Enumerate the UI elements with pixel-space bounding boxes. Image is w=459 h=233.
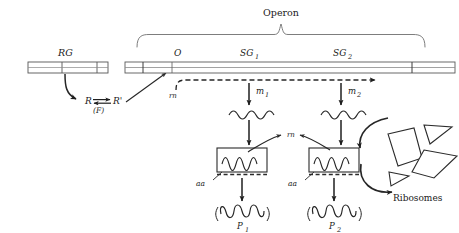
repressor-equilibrium-arrows [93,100,111,104]
ribosome-particle-1 [388,128,422,166]
regulator-transcription-arrow [65,74,76,99]
regulator-gene-label: RG [57,47,73,58]
protein-2-label: P [328,221,335,231]
amino-acid-pointer-left [213,172,222,180]
mrna-1-label: m [256,86,264,96]
effector-label: (F) [93,106,104,115]
amino-acid-pointer-right [305,172,314,180]
mrna-2-squiggle [321,111,366,119]
operon-regulation-diagram: RG R R' (F) Operon O SG 1 [0,0,459,232]
protein-2-right-cap [359,207,361,221]
rna-polymerase-transcription-track [176,80,375,90]
protein-1-helix [221,205,264,218]
protein-1-left-cap [216,207,218,221]
ribosomes-label: Ribosomes [393,193,443,203]
ribosome-release-arrow [361,164,392,192]
protein-2-label-group: P 2 [328,221,341,232]
structural-gene-1-subscript: 1 [255,53,259,61]
rna-polymerase-label-center: rn [287,131,295,139]
mrna-2-label-group: m 2 [348,86,361,99]
regulator-gene-group [28,62,108,73]
operon-bracket-label: Operon [263,7,299,18]
mrna-2-label: m [348,86,356,96]
operon-brace [137,24,425,47]
active-repressor-label: R' [112,96,122,106]
mrna-1-subscript: 1 [265,91,269,99]
protein-1-subscript: 1 [245,226,249,233]
mrna-1-squiggle [229,111,274,119]
mrna-1-label-group: m 1 [256,86,269,99]
ribosome-complex-1 [217,148,267,175]
protein-1-right-cap [267,207,269,221]
structural-gene-1-label: SG [240,48,253,58]
protein-2-subscript: 2 [336,226,341,233]
repressor-binds-operator-arrow [126,73,166,102]
structural-gene-2-subscript: 2 [347,53,352,61]
operon-dna-strand-group [125,62,455,73]
ribosome-particles [388,125,457,186]
ribosome-particle-4 [389,172,409,186]
protein-1-label: P [236,221,243,231]
structural-gene-2-label: SG [333,48,346,58]
protein-2-coil [308,205,362,221]
structural-gene-1-segment-label: SG 1 [240,48,259,61]
protein-1-label-group: P 1 [236,221,249,232]
operator-segment-label: O [174,48,182,58]
ribosome-particle-2 [424,125,452,144]
repressor-label: R [84,96,92,106]
protein-2-helix [313,205,356,218]
mrna-2-subscript: 2 [356,91,361,99]
ribosome-complex-2 [309,148,359,175]
amino-acid-label-left: aa [196,179,205,188]
diagram-canvas: RG R R' (F) Operon O SG 1 [0,0,459,232]
protein-2-left-cap [308,207,310,221]
ribosome-binding-arrow [360,118,388,148]
protein-1-coil [216,205,270,221]
rna-polymerase-label-left: rn [169,92,177,100]
structural-gene-2-segment-label: SG 2 [333,48,352,61]
amino-acid-label-right: aa [288,179,297,188]
